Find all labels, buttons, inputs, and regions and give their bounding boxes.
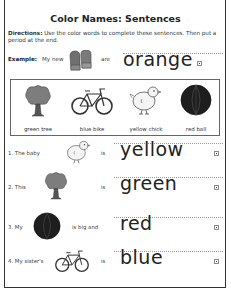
word-bank-item-blue-bike: blue bike <box>67 82 117 136</box>
word-bank-item-red-ball: red ball <box>171 82 221 136</box>
sentence-lead: 3. My <box>8 224 23 230</box>
example-verb: are <box>101 56 110 62</box>
word-bank-item-green-tree: green tree <box>13 82 63 136</box>
directions-label: Directions: <box>8 30 42 36</box>
tree-icon <box>43 169 69 203</box>
sentence-row-3: 3. My is big and red <box>8 211 223 243</box>
ball-icon <box>33 212 61 240</box>
word-bank: green tree blue bike yellow chick r <box>10 79 220 136</box>
sentence-row-4: 4. My sister's is blue <box>8 245 223 277</box>
period-box[interactable] <box>197 61 202 66</box>
directions: Directions: Use the color words to compl… <box>8 30 223 44</box>
sentence-verb: is <box>101 150 105 156</box>
word-bank-caption: yellow chick <box>121 126 171 132</box>
example-answer: orange <box>123 50 193 69</box>
sentence-verb: is big and <box>72 224 98 230</box>
sentence-verb: is <box>101 184 105 190</box>
period-box[interactable] <box>214 225 219 230</box>
sentence-answer: blue <box>120 248 163 267</box>
bike-icon <box>70 84 114 116</box>
sentence-row-2: 2. This is green <box>8 171 223 203</box>
tree-icon <box>23 84 53 118</box>
example-label: Example: <box>8 56 37 62</box>
chick-icon <box>129 84 163 116</box>
period-box[interactable] <box>214 259 219 264</box>
sentence-row-1: 1. The baby is yellow <box>8 137 223 169</box>
sentence-lead: 1. The baby <box>8 150 40 156</box>
word-bank-item-yellow-chick: yellow chick <box>121 82 171 136</box>
sentence-lead: 2. This <box>8 184 26 190</box>
sentence-answer: green <box>120 174 177 193</box>
sentence-answer: yellow <box>120 140 184 159</box>
word-bank-caption: blue bike <box>67 126 117 132</box>
mittens-icon <box>68 50 94 72</box>
period-box[interactable] <box>214 185 219 190</box>
sentence-lead: 4. My sister's <box>8 258 43 264</box>
period-box[interactable] <box>214 151 219 156</box>
example-lead-text: My new <box>42 56 63 62</box>
chick-icon <box>64 139 92 165</box>
word-bank-caption: green tree <box>13 126 63 132</box>
sentence-answer: red <box>120 214 153 233</box>
sentence-verb: is <box>101 258 105 264</box>
worksheet-title: Color Names: Sentences <box>0 13 231 24</box>
word-bank-caption: red ball <box>171 126 221 132</box>
example-row: Example: My new are orange <box>8 48 223 74</box>
bike-icon <box>53 247 91 273</box>
ball-icon <box>180 84 212 116</box>
